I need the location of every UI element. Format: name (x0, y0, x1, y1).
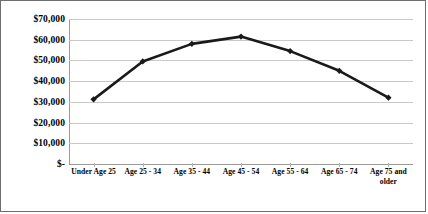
line-series (69, 19, 413, 164)
x-axis-tick-label: Age 65 - 74 (315, 167, 364, 177)
x-axis-tick-label: Age 75 and older (364, 167, 413, 186)
x-axis-tick-label: Age 55 - 64 (266, 167, 315, 177)
chart-frame: $-$10,000$20,000$30,000$40,000$50,000$60… (0, 0, 426, 212)
y-axis-tick-label: $40,000 (3, 76, 65, 86)
y-axis-tick-label: $- (3, 159, 65, 169)
data-point-marker (238, 34, 244, 40)
x-axis-tick-label: Age 45 - 54 (216, 167, 265, 177)
x-axis-tick-label: Age 35 - 44 (167, 167, 216, 177)
y-axis-tick-label: $30,000 (3, 97, 65, 107)
x-axis-tick-label: Age 25 - 34 (118, 167, 167, 177)
y-axis-tick-label: $60,000 (3, 35, 65, 45)
y-axis-tick-label: $20,000 (3, 118, 65, 128)
series-line (94, 37, 389, 100)
y-axis-tick-label: $70,000 (3, 14, 65, 24)
data-point-marker (189, 41, 195, 47)
plot-area (69, 19, 413, 164)
y-axis-labels: $-$10,000$20,000$30,000$40,000$50,000$60… (1, 1, 65, 214)
x-axis-labels: Under Age 25Age 25 - 34Age 35 - 44Age 45… (69, 167, 413, 207)
y-axis-tick-label: $50,000 (3, 55, 65, 65)
y-axis-tick-label: $10,000 (3, 138, 65, 148)
x-axis-tick-label: Under Age 25 (69, 167, 118, 177)
